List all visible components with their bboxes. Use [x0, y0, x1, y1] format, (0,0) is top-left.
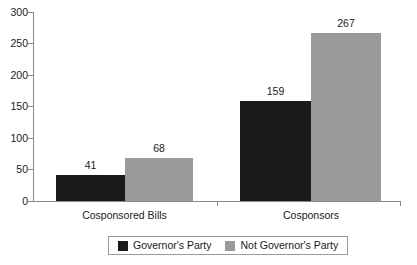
chart-legend: Governor's Party Not Governor's Party [108, 236, 348, 255]
bar-cosponsors-governors-party [240, 101, 311, 201]
legend-label-not-governors-party: Not Governor's Party [240, 240, 338, 251]
category-label-cosponsored-bills: Cosponsored Bills [55, 209, 194, 221]
legend-swatch-icon-governors-party [118, 241, 128, 251]
x-axis-tick-separator [217, 201, 218, 206]
y-axis-tick-50 [28, 169, 34, 170]
bar-cosponsored-bills-governors-party [56, 175, 125, 201]
plot-area: 300 250 200 150 100 50 0 41 68 159 267 C… [0, 0, 417, 265]
y-axis-line [33, 12, 34, 202]
bar-value-159: 159 [240, 86, 311, 97]
y-axis-tick-200 [28, 75, 34, 76]
y-axis-label-300: 300 [0, 7, 28, 17]
y-axis-label-150: 150 [0, 101, 28, 111]
bar-value-41: 41 [56, 160, 125, 171]
y-axis-label-250: 250 [0, 38, 28, 48]
y-axis-label-200: 200 [0, 70, 28, 80]
bar-value-68: 68 [125, 143, 193, 154]
bar-value-267: 267 [311, 18, 381, 29]
legend-item-not-governors-party: Not Governor's Party [225, 240, 338, 251]
bar-cosponsored-bills-not-governors-party [125, 158, 193, 201]
bar-chart: 300 250 200 150 100 50 0 41 68 159 267 C… [0, 0, 417, 265]
bar-cosponsors-not-governors-party [311, 33, 381, 201]
legend-swatch-icon-not-governors-party [225, 241, 235, 251]
y-axis-tick-0 [28, 201, 34, 202]
y-axis-tick-150 [28, 106, 34, 107]
y-axis-label-0: 0 [0, 196, 28, 206]
x-axis-tick-end [400, 201, 401, 206]
y-axis-label-100: 100 [0, 133, 28, 143]
y-axis-tick-250 [28, 43, 34, 44]
y-axis-tick-300 [28, 12, 34, 13]
legend-label-governors-party: Governor's Party [133, 240, 211, 251]
y-axis-label-50: 50 [0, 164, 28, 174]
legend-item-governors-party: Governor's Party [118, 240, 211, 251]
y-axis-tick-100 [28, 138, 34, 139]
category-label-cosponsors: Cosponsors [240, 209, 382, 221]
